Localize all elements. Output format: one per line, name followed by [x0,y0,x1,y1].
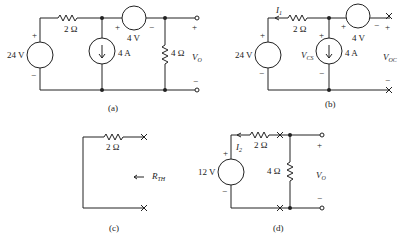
caption-a: (a) [108,103,118,113]
label-4a: 4 A [118,48,131,58]
voltage-source-24v-b [255,42,281,68]
svg-text:−: − [193,76,198,86]
label-4a: 4 A [345,48,358,58]
resistor-2ohm-a [58,15,77,21]
resistor-4ohm-d [287,162,293,181]
label-i2: I2 [235,142,242,153]
svg-text:−: − [222,186,227,196]
voltage-source-12v-d [218,159,244,185]
svg-text:−: − [385,75,390,85]
label-4v: 4 V [352,33,366,43]
terminal-top-d [320,133,324,137]
terminal-bottom-a [195,88,199,92]
resistor-4ohm-a [162,45,168,64]
caption-b: (b) [325,99,336,109]
svg-text:+: + [385,22,390,32]
label-4ohm: 4 Ω [171,48,185,58]
minus-sign: − [31,70,36,80]
resistor-2ohm-b [288,15,307,21]
svg-text:+: + [223,148,228,158]
terminal-bottom-d [320,206,324,210]
label-vo: VO [192,52,203,63]
svg-text:−: − [149,22,154,32]
terminal-top-a [195,16,199,20]
svg-text:−: − [317,193,322,203]
label-vcs: VCS [301,50,314,61]
voltage-source-4v-a [122,6,146,30]
label-2ohm: 2 Ω [254,140,268,150]
svg-text:+: + [341,21,346,31]
svg-text:+: + [319,30,324,40]
voltage-source-4v-b [346,4,370,28]
circuit-a: + − 24 V 2 Ω + − 4 V 4 A 4 Ω + − VO (a) [7,6,203,113]
caption-d: (d) [273,223,284,233]
label-vo: VO [316,170,327,181]
resistor-2ohm-c [104,134,123,140]
label-4ohm: 4 Ω [267,166,281,176]
circuit-b: I1 + − 24 V 2 Ω + − 4 V + − VCS 4 A + − … [235,4,398,109]
label-24v: 24 V [235,50,253,60]
svg-text:+: + [317,140,322,150]
caption-c: (c) [109,223,119,233]
plus-sign: + [32,30,37,40]
label-12v: 12 V [198,167,216,177]
voltage-source-24v-a [27,42,53,68]
svg-text:−: − [259,68,264,78]
label-rth: RTH [151,171,166,182]
label-24v: 24 V [7,50,25,60]
svg-text:+: + [260,30,265,40]
label-2ohm: 2 Ω [64,24,78,34]
circuit-diagrams: + − 24 V 2 Ω + − 4 V 4 A 4 Ω + − VO (a) … [0,0,400,237]
svg-text:+: + [115,22,120,32]
circuit-d: I2 + − 12 V 2 Ω 4 Ω + − VO (d) [198,132,327,233]
resistor-2ohm-d [250,132,269,138]
label-2ohm: 2 Ω [293,24,307,34]
label-4v: 4 V [127,33,141,43]
svg-text:−: − [319,68,324,78]
label-voc: VOC [383,52,398,63]
svg-text:−: − [374,20,379,30]
arrow-left-icon [134,175,144,179]
circuit-c: 2 Ω RTH (c) [83,134,166,233]
svg-text:+: + [192,22,197,32]
label-2ohm: 2 Ω [106,142,120,152]
label-i1: I1 [275,5,282,16]
